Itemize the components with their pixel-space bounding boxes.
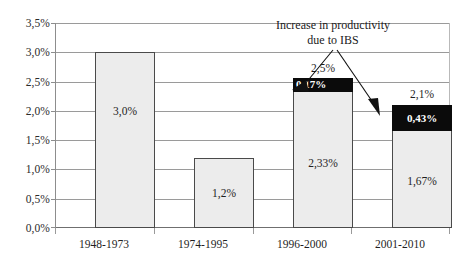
y-tickmark bbox=[51, 111, 56, 112]
bar-segment-base-label: 2,33% bbox=[293, 157, 353, 170]
bar-total-label: 2,1% bbox=[392, 88, 452, 101]
y-tickmark bbox=[51, 199, 56, 200]
bar-segment-base-label: 1,2% bbox=[194, 187, 254, 200]
productivity-bar-chart: 3,5% 3,0% 2,5% 2,0% 1,5% 1,0% 0,5% 0,0% … bbox=[0, 0, 467, 262]
y-tick-label: 3,0% bbox=[6, 46, 50, 58]
x-axis: 1948-1973 1974-1995 1996-2000 2001-2010 bbox=[55, 228, 450, 262]
bar-segment-highlight-label: 0,17% bbox=[293, 78, 353, 91]
y-tick-label: 1,0% bbox=[6, 163, 50, 175]
x-tick-label-1996-2000: 1996-2000 bbox=[253, 237, 351, 251]
x-axis-separator bbox=[351, 228, 352, 234]
y-tickmark bbox=[51, 169, 56, 170]
bar-segment-base-label: 1,67% bbox=[392, 175, 452, 188]
y-tick-label: 0,0% bbox=[6, 222, 50, 234]
y-axis: 3,5% 3,0% 2,5% 2,0% 1,5% 1,0% 0,5% 0,0% bbox=[0, 0, 50, 262]
y-tickmark bbox=[51, 23, 56, 24]
bar-segment-base bbox=[95, 52, 155, 228]
bar-1948-1973: 3,0% bbox=[95, 52, 155, 228]
y-tickmark bbox=[51, 82, 56, 83]
bar-segment-highlight-label: 0,43% bbox=[392, 112, 452, 125]
y-tickmark bbox=[51, 140, 56, 141]
annotation-text: Increase in productivity due to IBS bbox=[243, 18, 423, 48]
x-axis-separator bbox=[253, 228, 254, 234]
x-axis-separator bbox=[449, 228, 450, 234]
x-tick-label-2001-2010: 2001-2010 bbox=[351, 237, 449, 251]
y-tick-label: 1,5% bbox=[6, 134, 50, 146]
bar-1996-2000: 2,33% 0,17% 2,5% bbox=[293, 82, 353, 228]
x-axis-separator bbox=[154, 228, 155, 234]
bar-2001-2010: 1,67% 0,43% 2,1% bbox=[392, 105, 452, 228]
x-tick-label-1974-1995: 1974-1995 bbox=[154, 237, 252, 251]
bar-total-label: 2,5% bbox=[293, 62, 353, 75]
annotation-line-1: Increase in productivity bbox=[243, 18, 423, 33]
bar-1974-1995: 1,2% bbox=[194, 158, 254, 228]
y-tick-label: 0,5% bbox=[6, 193, 50, 205]
bar-segment-base-label: 3,0% bbox=[95, 105, 155, 118]
y-tickmark bbox=[51, 52, 56, 53]
annotation-line-2: due to IBS bbox=[243, 33, 423, 48]
plot-area: 3,0% 1,2% 2,33% 0,17% 2,5% 1,67% 0,43% 2… bbox=[55, 23, 450, 228]
x-tick-label-1948-1973: 1948-1973 bbox=[55, 237, 153, 251]
y-tick-label: 3,5% bbox=[6, 17, 50, 29]
y-tick-label: 2,5% bbox=[6, 76, 50, 88]
x-axis-separator bbox=[55, 228, 56, 234]
y-tick-label: 2,0% bbox=[6, 105, 50, 117]
